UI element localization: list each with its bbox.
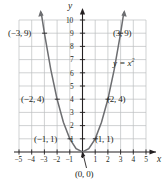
y-axis-label: y	[68, 2, 72, 12]
x-tick-neg2: −2	[53, 156, 60, 163]
point-label-origin: (0, 0)	[75, 170, 93, 179]
y-tick-6: 6	[70, 70, 73, 77]
x-tick-4: 4	[132, 156, 135, 163]
curve-arrow-right	[121, 10, 126, 17]
y-tick-1: 1	[70, 136, 73, 143]
x-tick-1: 1	[93, 156, 96, 163]
y-tick-7: 7	[70, 56, 73, 63]
point-label-3-9: (3, 9)	[113, 29, 131, 38]
curve-arrow-left	[38, 10, 43, 17]
x-tick-neg5: −5	[15, 156, 22, 163]
y-axis-arrow	[80, 8, 85, 15]
x-tick-2: 2	[106, 156, 109, 163]
x-tick-3: 3	[119, 156, 122, 163]
x-axis-arrow	[150, 149, 157, 154]
y-tick-8: 8	[70, 43, 73, 50]
y-tick-10: 10	[66, 17, 73, 24]
x-tick-neg1: −1	[65, 156, 72, 163]
equation-text: y = x	[113, 58, 132, 68]
x-tick-neg4: −4	[27, 156, 34, 163]
point-label-2-4: (2, 4)	[107, 95, 125, 104]
parabola-figure: y x 1 2 3 4 5 6 7 8 9 10 −5 −4 −3 −2 −1 …	[0, 0, 167, 188]
y-tick-9: 9	[70, 30, 73, 37]
point-label-neg2-4: (−2, 4)	[21, 95, 44, 104]
equation-label: y = x2	[113, 59, 135, 68]
equation-exponent: 2	[132, 57, 135, 63]
y-tick-2: 2	[70, 122, 73, 129]
point-label-neg3-9: (−3, 9)	[8, 29, 31, 38]
y-tick-3: 3	[70, 109, 73, 116]
y-tick-4: 4	[70, 96, 73, 103]
y-tick-5: 5	[70, 83, 73, 90]
point-label-neg1-1: (−1, 1)	[34, 135, 57, 144]
x-axis-label: x	[157, 155, 161, 165]
x-tick-neg3: −3	[40, 156, 47, 163]
x-tick-5: 5	[144, 156, 147, 163]
point-label-1-1: (1, 1)	[95, 135, 113, 144]
